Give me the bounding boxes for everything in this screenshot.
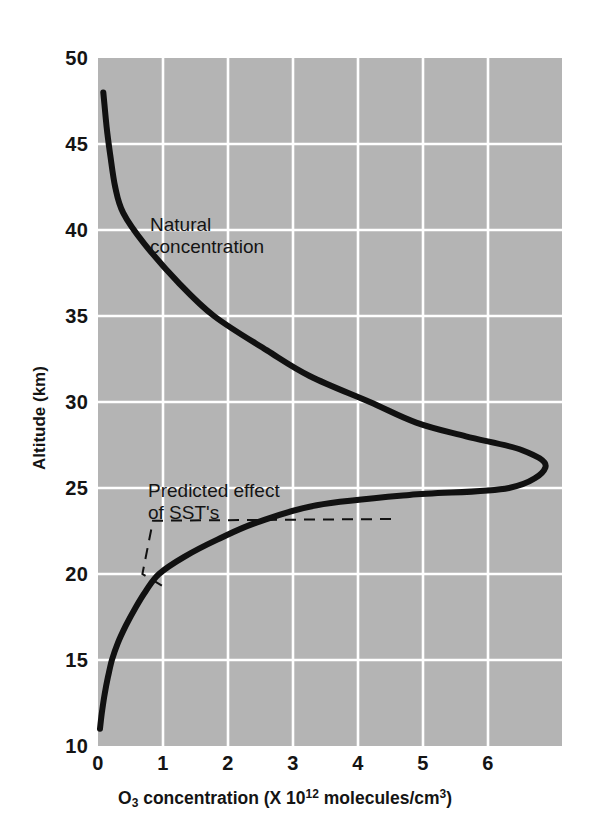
y-tick-30: 30 (48, 391, 88, 414)
x-axis-title-o: O (118, 788, 132, 808)
annotation-predicted-effect-sst: Predicted effect of SST's (148, 480, 280, 525)
x-tick-1: 1 (148, 752, 178, 775)
chart-figure: 50 45 40 35 30 25 20 15 10 0 1 2 3 4 5 6… (0, 0, 590, 828)
x-tick-3: 3 (278, 752, 308, 775)
y-tick-50: 50 (48, 47, 88, 70)
x-axis-title-end: ) (446, 788, 452, 808)
x-axis-title-mid: concentration (X 10 (138, 788, 305, 808)
y-axis-title: Altitude (km) (30, 366, 50, 470)
x-tick-5: 5 (408, 752, 438, 775)
y-tick-15: 15 (48, 649, 88, 672)
x-axis-title: O3 concentration (X 1012 molecules/cm3) (118, 787, 452, 810)
x-tick-4: 4 (343, 752, 373, 775)
x-tick-2: 2 (213, 752, 243, 775)
y-tick-20: 20 (48, 563, 88, 586)
x-axis-title-mid2: molecules/cm (319, 788, 440, 808)
x-tick-0: 0 (83, 752, 113, 775)
annotation-natural-concentration: Natural concentration (150, 214, 264, 259)
y-tick-10: 10 (48, 735, 88, 758)
y-tick-40: 40 (48, 219, 88, 242)
y-tick-45: 45 (48, 133, 88, 156)
x-axis-title-superscript-12: 12 (306, 787, 319, 801)
y-tick-35: 35 (48, 305, 88, 328)
chart-canvas (0, 0, 590, 828)
y-tick-25: 25 (48, 477, 88, 500)
x-tick-6: 6 (473, 752, 503, 775)
